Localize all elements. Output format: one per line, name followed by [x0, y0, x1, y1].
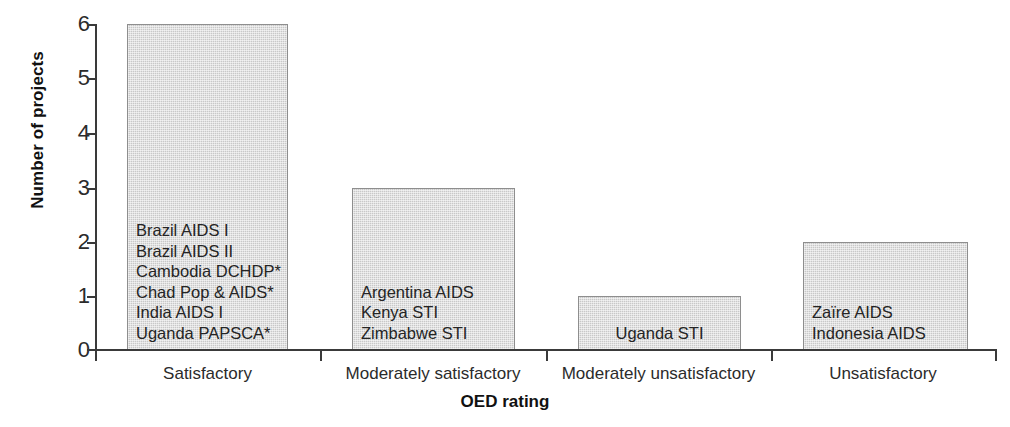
x-tick-mark-end	[995, 351, 997, 361]
bar-unsatisfactory[interactable]: Zaïre AIDS Indonesia AIDS	[803, 242, 968, 350]
bar-item-label: Zaïre AIDS	[812, 302, 926, 323]
bar-label-group-moderately-satisfactory: Argentina AIDS Kenya STI Zimbabwe STI	[361, 282, 474, 344]
y-tick-mark-1	[87, 296, 96, 298]
bar-item-label: Cambodia DCHDP*	[136, 261, 281, 282]
bar-item-label: India AIDS I	[136, 302, 281, 323]
bar-item-label: Chad Pop & AIDS*	[136, 282, 281, 303]
x-category-label-moderately-satisfactory: Moderately satisfactory	[320, 364, 546, 384]
bar-moderately-unsatisfactory[interactable]: Uganda STI	[578, 296, 741, 350]
bar-moderately-satisfactory[interactable]: Argentina AIDS Kenya STI Zimbabwe STI	[352, 188, 515, 350]
x-category-label-satisfactory: Satisfactory	[95, 364, 320, 384]
y-axis-tick-labels: 6 5 4 3 2 1 0	[36, 0, 90, 427]
y-tick-mark-5	[87, 78, 96, 80]
x-category-label-unsatisfactory: Unsatisfactory	[771, 364, 995, 384]
bar-item-label: Uganda PAPSCA*	[136, 323, 281, 344]
x-category-label-moderately-unsatisfactory: Moderately unsatisfactory	[546, 364, 771, 384]
y-tick-mark-6	[87, 24, 96, 26]
bar-item-label: Zimbabwe STI	[361, 323, 474, 344]
y-tick-mark-4	[87, 133, 96, 135]
bar-label-group-unsatisfactory: Zaïre AIDS Indonesia AIDS	[812, 302, 926, 343]
bar-label-group-satisfactory: Brazil AIDS I Brazil AIDS II Cambodia DC…	[136, 220, 281, 343]
bar-item-label: Argentina AIDS	[361, 282, 474, 303]
x-tick-mark-1	[320, 351, 322, 361]
bar-label-group-moderately-unsatisfactory: Uganda STI	[579, 323, 740, 344]
bar-item-label: Indonesia AIDS	[812, 323, 926, 344]
bar-chart: Number of projects 6 5 4 3 2 1 0 Brazil …	[0, 0, 1010, 427]
x-axis-title: OED rating	[0, 392, 1010, 412]
bar-item-label: Brazil AIDS I	[136, 220, 281, 241]
bar-item-label: Brazil AIDS II	[136, 241, 281, 262]
bar-satisfactory[interactable]: Brazil AIDS I Brazil AIDS II Cambodia DC…	[127, 24, 288, 350]
bar-item-label: Uganda STI	[579, 323, 740, 344]
y-tick-mark-2	[87, 242, 96, 244]
y-tick-mark-3	[87, 188, 96, 190]
x-tick-mark-start	[95, 351, 97, 361]
bar-item-label: Kenya STI	[361, 302, 474, 323]
x-tick-mark-3	[771, 351, 773, 361]
x-tick-mark-2	[546, 351, 548, 361]
